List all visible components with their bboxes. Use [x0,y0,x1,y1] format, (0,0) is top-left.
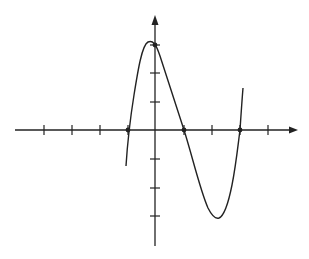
marked-points [126,43,243,133]
y-intercept-point [153,43,158,48]
root-point [126,128,131,133]
x-axis-arrow-icon [289,127,298,134]
root-point [182,128,187,133]
graph-canvas [0,0,309,259]
root-point [238,128,243,133]
cubic-function-graph [0,0,309,259]
y-axis-arrow-icon [152,15,159,25]
